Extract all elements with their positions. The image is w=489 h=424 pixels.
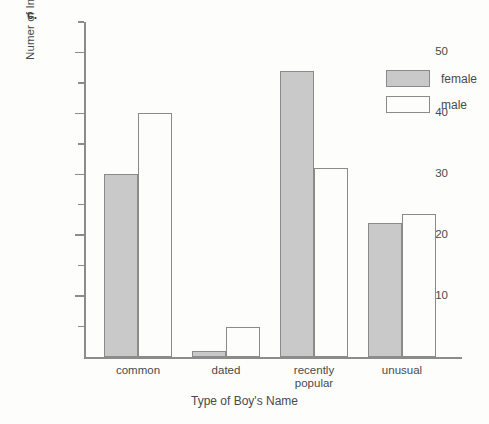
y-tick-label: 30 [424,168,448,180]
y-tick-minor [78,82,84,83]
bar-male-3 [402,214,436,357]
y-tick-minor [78,326,84,327]
x-axis-line [84,357,462,359]
legend-label: male [441,98,467,112]
y-tick-major [75,234,84,235]
bar-female-1 [192,351,226,357]
y-tick-minor [78,204,84,205]
y-tick-major [75,113,84,114]
bar-male-1 [226,327,260,357]
legend-item-male: male [386,96,477,113]
bar-female-3 [368,223,402,357]
y-tick-minor [78,143,84,144]
chart-figure: c. Numer of Individuals Who Preferred Na… [0,0,489,424]
legend-swatch-male [386,96,430,113]
y-axis-title: Numer of Individuals Who Preferred Name [24,0,36,60]
legend-item-female: female [386,70,477,87]
x-axis-title: Type of Boy's Name [0,394,489,408]
y-axis-line [84,22,86,357]
bar-female-0 [104,174,138,357]
y-tick-minor [78,265,84,266]
y-tick-label: 50 [424,46,448,58]
x-category-label: unusual [357,364,447,377]
x-category-label: recently popular [269,364,359,389]
legend-label: female [441,72,477,86]
y-tick-major [75,295,84,296]
bar-male-0 [138,113,172,357]
y-tick-major [75,174,84,175]
y-tick-minor [78,21,84,22]
bar-male-2 [314,168,348,357]
legend: femalemale [386,70,477,122]
bar-female-2 [280,71,314,357]
y-tick-major [75,52,84,53]
legend-swatch-female [386,70,430,87]
x-category-label: common [93,364,183,377]
x-category-label: dated [181,364,271,377]
